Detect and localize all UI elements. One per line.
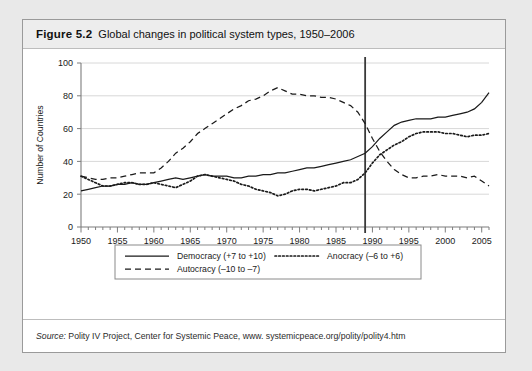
source-label: Source: bbox=[36, 331, 66, 341]
y-axis-tick-label: 20 bbox=[63, 190, 73, 200]
series-line-solid bbox=[81, 93, 489, 191]
source-citation: Polity IV Project, Center for Systemic P… bbox=[66, 331, 405, 341]
legend-label: Anocracy (–6 to +6) bbox=[327, 251, 403, 261]
x-axis-tick-label: 1950 bbox=[71, 236, 91, 246]
y-axis-tick-label: 60 bbox=[63, 124, 73, 134]
chart-area: 020406080100Number of Countries195019551… bbox=[23, 49, 505, 290]
x-axis-tick-label: 2000 bbox=[435, 236, 455, 246]
legend-label: Democracy (+7 to +10) bbox=[177, 251, 266, 261]
figure-number: Figure 5.2 bbox=[36, 28, 92, 40]
y-axis-tick-label: 0 bbox=[68, 222, 73, 232]
legend-box bbox=[115, 245, 421, 279]
figure-header: Figure 5.2 Global changes in political s… bbox=[23, 20, 505, 49]
y-axis-tick-label: 40 bbox=[63, 157, 73, 167]
legend-label: Autocracy (–10 to –7) bbox=[177, 264, 260, 274]
series-line-dashed bbox=[81, 88, 489, 186]
figure-title: Global changes in political system types… bbox=[98, 28, 354, 40]
x-axis-tick-label: 2005 bbox=[472, 236, 492, 246]
y-axis-tick-label: 80 bbox=[63, 91, 73, 101]
series-line-dotted bbox=[81, 132, 489, 196]
source-note: Source: Polity IV Project, Center for Sy… bbox=[23, 319, 505, 352]
y-axis-title: Number of Countries bbox=[35, 105, 45, 184]
figure-container: Figure 5.2 Global changes in political s… bbox=[22, 19, 506, 353]
y-axis-tick-label: 100 bbox=[58, 58, 73, 68]
line-chart: 020406080100Number of Countries195019551… bbox=[23, 49, 505, 290]
